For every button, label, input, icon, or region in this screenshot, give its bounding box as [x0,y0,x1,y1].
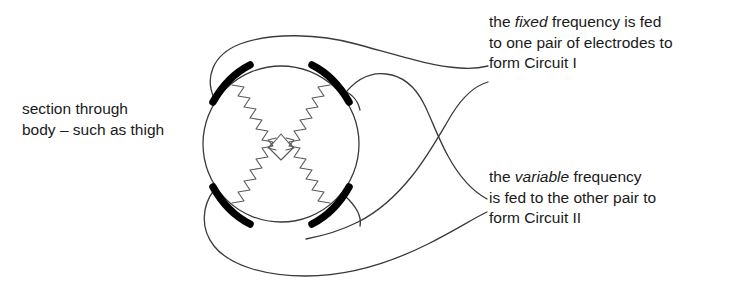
label-fixed-line-1: the fixed frequency is fed [489,12,673,33]
body-section-outline [203,66,359,222]
label-variable-line-2: is fed to the other pair to [489,188,656,209]
label-fixed-line-1-suffix: frequency is fed [548,13,662,30]
label-fixed-line-3: form Circuit I [489,53,673,74]
label-variable-line-1-prefix: the [489,168,515,185]
label-fixed-line-1-prefix: the [489,13,515,30]
label-variable-line-1-suffix: frequency [569,168,641,185]
label-variable-line-3: form Circuit II [489,208,656,229]
label-section-line-2: body – such as thigh [22,120,164,141]
label-fixed-frequency-circuit-one: the fixed frequency is fed to one pair o… [489,12,673,74]
label-fixed-emphasis-word: fixed [515,13,548,30]
wave-upper-left [232,85,276,150]
electrode-bottom-right [312,187,349,224]
cable-circuit-one-lower [343,74,487,199]
label-section-through-body: section through body – such as thigh [22,99,164,140]
interference-centre-node [269,134,293,160]
wave-upper-right [286,85,330,150]
label-variable-frequency-circuit-two: the variable frequency is fed to the oth… [489,167,656,229]
label-section-line-1: section through [22,99,164,120]
electrode-bottom-left [213,187,250,224]
interferential-diagram: section through body – such as thigh the… [0,0,733,291]
label-fixed-line-2: to one pair of electrodes to [489,33,673,54]
cable-circuit-two-upper [306,82,488,239]
label-variable-emphasis-word: variable [515,168,569,185]
cable-circuit-two-lower [204,190,487,276]
label-variable-line-1: the variable frequency [489,167,656,188]
